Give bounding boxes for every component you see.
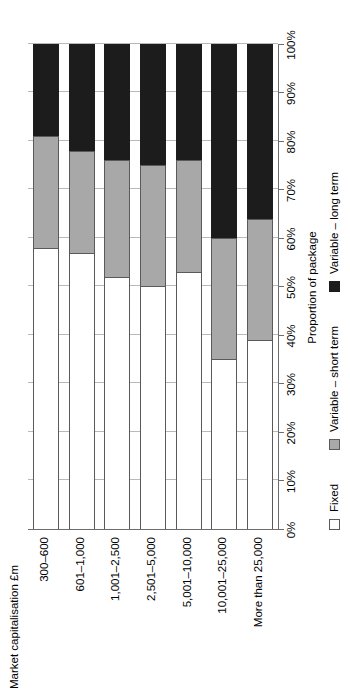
x-axis-title: Proportion of package [306, 45, 318, 530]
bar-segment[interactable] [140, 165, 166, 286]
category-label: More than 25,000 [252, 537, 264, 627]
bar-segment[interactable] [104, 160, 130, 276]
category-label: 300–600 [38, 537, 50, 582]
x-axis-tick-label: 70% [285, 179, 297, 202]
x-axis-tick-label: 100% [285, 30, 297, 59]
plot-area [28, 44, 278, 530]
x-axis-tick-label: 20% [285, 421, 297, 444]
x-axis-tick-label: 60% [285, 227, 297, 250]
bar-row[interactable] [69, 44, 95, 529]
bar-segment[interactable] [176, 44, 202, 160]
bar-row[interactable] [140, 44, 166, 529]
bar-segment[interactable] [69, 253, 95, 529]
bar-segment[interactable] [104, 44, 130, 160]
bar-segment[interactable] [140, 287, 166, 530]
category-label-layer: 300–600601–1,0001,001–2,5002,501–5,0005,… [28, 537, 278, 697]
x-axis-tick [278, 287, 284, 288]
chart-rotation-wrapper: Market capitalisation £m 300–600601–1,00… [0, 0, 350, 697]
x-axis-line [278, 45, 279, 530]
bar-segment[interactable] [247, 219, 273, 340]
x-axis-tick-label: 0% [285, 522, 297, 539]
x-axis-tick [278, 238, 284, 239]
bar-segment[interactable] [33, 248, 59, 529]
x-axis-tick-label: 10% [285, 470, 297, 493]
legend-swatch-variable-long-term [329, 281, 340, 292]
legend-label: Variable – short term [328, 326, 340, 432]
x-axis-tick [278, 141, 284, 142]
bar-row[interactable] [33, 44, 59, 529]
x-axis-tick-label: 50% [285, 276, 297, 299]
bar-row[interactable] [211, 44, 237, 529]
bar-segment[interactable] [176, 160, 202, 272]
bar-segment[interactable] [247, 340, 273, 529]
legend-item[interactable]: Variable – short term [328, 326, 340, 450]
x-axis-tick [278, 190, 284, 191]
bar-segment[interactable] [33, 136, 59, 248]
bar-segment[interactable] [69, 44, 95, 151]
x-axis-tick-label: 90% [285, 82, 297, 105]
legend-swatch-fixed [329, 519, 340, 530]
bar-segment[interactable] [211, 238, 237, 359]
stacked-bar-chart: Market capitalisation £m 300–600601–1,00… [0, 0, 350, 697]
x-axis-tick [278, 529, 284, 530]
bar-segment[interactable] [247, 44, 273, 219]
bar-row[interactable] [104, 44, 130, 529]
bar-segment[interactable] [211, 359, 237, 529]
legend-label: Variable – long term [328, 172, 340, 274]
x-axis-tick-label: 30% [285, 373, 297, 396]
x-axis-tick [278, 93, 284, 94]
category-label: 1,001–2,500 [109, 537, 121, 601]
legend-label: Fixed [328, 484, 340, 512]
x-axis-tick [278, 44, 284, 45]
bar-segment[interactable] [176, 272, 202, 529]
x-axis-tick [278, 384, 284, 385]
category-label: 5,001–10,000 [181, 537, 193, 607]
x-axis-tick [278, 432, 284, 433]
x-axis-tick-label: 40% [285, 324, 297, 347]
x-axis-tick [278, 335, 284, 336]
legend-item[interactable]: Variable – long term [328, 172, 340, 292]
bar-segment[interactable] [140, 44, 166, 165]
legend-swatch-variable-short-term [329, 439, 340, 450]
bar-row[interactable] [176, 44, 202, 529]
y-axis-title: Market capitalisation £m [8, 565, 20, 689]
bar-row[interactable] [247, 44, 273, 529]
x-axis-tick-label: 80% [285, 130, 297, 153]
legend-item[interactable]: Fixed [328, 484, 340, 530]
category-label: 601–1,000 [74, 537, 86, 591]
bar-segment[interactable] [33, 44, 59, 136]
category-label: 10,001–25,000 [216, 537, 228, 614]
category-label: 2,501–5,000 [145, 537, 157, 601]
x-axis-tick [278, 481, 284, 482]
bar-segment[interactable] [211, 44, 237, 238]
bar-segment[interactable] [104, 277, 130, 529]
chart-legend: FixedVariable – short termVariable – lon… [328, 172, 340, 530]
bar-segment[interactable] [69, 151, 95, 253]
